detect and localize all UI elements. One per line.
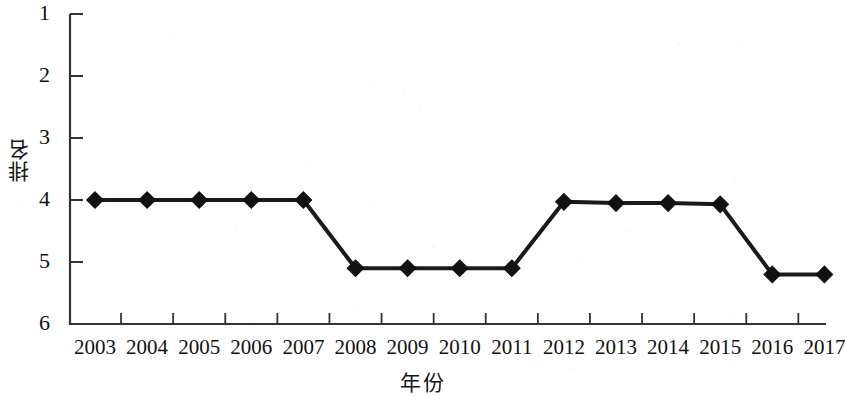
x-tick-label-2014: 2014 [639,336,697,358]
y-tick-label-2: 2 [22,64,50,86]
data-point-marker-2004 [139,192,155,208]
x-tick-label-2009: 2009 [379,336,437,358]
x-tick-label-2008: 2008 [327,336,385,358]
data-point-marker-2009 [399,260,415,276]
x-tick-label-2015: 2015 [691,336,749,358]
x-tick-label-2012: 2012 [535,336,593,358]
data-point-marker-2005 [191,192,207,208]
x-axis-title-text: 年份 [400,371,446,395]
x-tick-label-2011: 2011 [483,336,541,358]
x-tick-label-2016: 2016 [743,336,801,358]
x-tick-label-2017: 2017 [795,336,846,358]
data-point-marker-2003 [87,192,103,208]
data-point-marker-2006 [243,192,259,208]
data-point-marker-2014 [660,195,676,211]
x-tick-label-2003: 2003 [66,336,124,358]
y-tick-label-6: 6 [22,312,50,334]
y-axis-title-text: 排名 [5,138,35,182]
y-tick-label-1: 1 [22,2,50,24]
data-point-marker-2013 [608,195,624,211]
x-tick-label-2010: 2010 [431,336,489,358]
x-axis-title: 年份 [0,366,846,396]
x-tick-label-2006: 2006 [222,336,280,358]
data-point-marker-2017 [816,266,832,282]
y-tick-label-5: 5 [22,250,50,272]
data-point-marker-2010 [452,260,468,276]
x-tick-label-2007: 2007 [274,336,332,358]
y-axis-title: 排名 [0,110,40,210]
x-tick-label-2005: 2005 [170,336,228,358]
rank-by-year-line-chart: 1 2 3 4 5 6 2003 2004 2005 2006 2007 200… [0,0,846,396]
x-tick-label-2004: 2004 [118,336,176,358]
x-tick-label-2013: 2013 [587,336,645,358]
